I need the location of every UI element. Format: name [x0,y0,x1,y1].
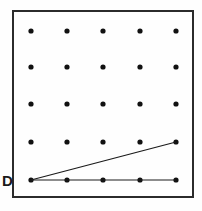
peg-dot-r3-c4 [137,101,142,106]
figure-container: D [0,0,202,211]
peg-dot-r2-c4 [137,64,142,69]
peg-dot-r4-c3 [100,139,105,144]
peg-dot-r1-c2 [64,28,69,33]
peg-dot-r1-c5 [173,28,178,33]
peg-dot-r2-c2 [64,64,69,69]
peg-dot-r3-c3 [100,101,105,106]
peg-dot-r3-c1 [28,101,33,106]
peg-dot-r1-c4 [137,28,142,33]
peg-dot-r2-c3 [100,64,105,69]
peg-dot-r4-c4 [137,139,142,144]
peg-dot-r4-c1 [28,139,33,144]
peg-dot-r4-c2 [64,139,69,144]
peg-dot-r1-c1 [28,28,33,33]
peg-dot-r2-c5 [173,64,178,69]
peg-dot-r3-c5 [173,101,178,106]
peg-dot-r2-c1 [28,64,33,69]
figure-label-d: D [2,172,13,189]
peg-dot-r1-c3 [100,28,105,33]
peg-dot-r3-c2 [64,101,69,106]
geoboard-canvas: D [0,0,202,211]
